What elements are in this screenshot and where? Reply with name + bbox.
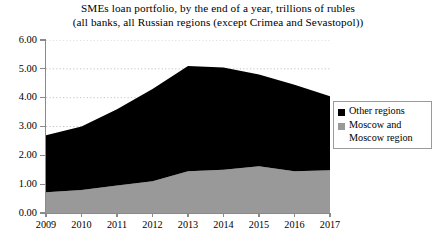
legend-item-other-regions: Other regions [338, 105, 427, 117]
y-axis-label: 2.00 [0, 150, 37, 160]
y-axis-label: 6.00 [0, 35, 37, 45]
plot-area [46, 40, 330, 213]
x-axis-tick [329, 213, 330, 217]
y-axis-label: 3.00 [0, 121, 37, 131]
chart-title-block: SMEs loan portfolio, by the end of a yea… [0, 2, 436, 29]
y-axis-label: 0.00 [0, 208, 37, 218]
legend-label: Other regions [349, 105, 405, 117]
x-axis-label: 2015 [239, 219, 279, 230]
x-axis-label: 2016 [275, 219, 315, 230]
x-axis-label: 2010 [62, 219, 102, 230]
legend-swatch-icon [338, 109, 345, 116]
chart-container: SMEs loan portfolio, by the end of a yea… [0, 0, 436, 245]
page-title: SMEs loan portfolio, by the end of a yea… [0, 2, 436, 16]
chart-legend: Other regions Moscow and Moscow region [333, 101, 432, 149]
x-axis-tick [258, 213, 259, 217]
x-axis-tick [223, 213, 224, 217]
y-axis-label: 1.00 [0, 179, 37, 189]
x-axis-label: 2014 [204, 219, 244, 230]
x-axis-label: 2013 [168, 219, 208, 230]
x-axis-tick [187, 213, 188, 217]
y-axis-label: 5.00 [0, 64, 37, 74]
stacked-area-chart [46, 40, 330, 213]
x-axis-label: 2009 [26, 219, 66, 230]
x-axis-tick [81, 213, 82, 217]
x-axis-tick [152, 213, 153, 217]
x-axis-label: 2012 [133, 219, 173, 230]
legend-item-moscow: Moscow and Moscow region [338, 119, 427, 144]
x-axis-label: 2011 [97, 219, 137, 230]
x-axis-tick [45, 213, 46, 217]
legend-swatch-icon [338, 123, 345, 130]
x-axis-label: 2017 [310, 219, 350, 230]
x-axis-tick [294, 213, 295, 217]
legend-label: Moscow and Moscow region [349, 119, 413, 144]
chart-subtitle: (all banks, all Russian regions (except … [0, 16, 436, 30]
y-axis-label: 4.00 [0, 92, 37, 102]
x-axis-tick [116, 213, 117, 217]
